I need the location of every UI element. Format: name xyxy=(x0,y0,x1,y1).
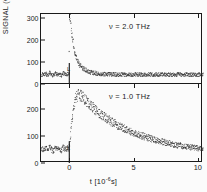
figure-container: SIGNAL (COUNTS) ν = 2.0 THz L 0100200300… xyxy=(0,0,207,192)
x-tick-mark xyxy=(198,14,199,18)
y-tick-mark xyxy=(41,17,45,18)
origin-marker-bottom: L xyxy=(67,145,70,151)
annotation-frequency-bottom: ν = 1.0 THz xyxy=(109,92,150,101)
y-tick-mark xyxy=(41,135,45,136)
x-tick-label: 0 xyxy=(67,163,71,172)
y-tick-label: 300 xyxy=(27,14,39,21)
x-axis-title-tail: s] xyxy=(111,177,117,186)
y-tick-mark xyxy=(41,39,45,40)
y-tick-label: 0 xyxy=(35,81,39,88)
y-tick-label: 100 xyxy=(27,58,39,65)
x-tick-mark xyxy=(198,84,199,88)
y-tick-mark xyxy=(41,108,45,109)
chart-panel-bottom: ν = 1.0 THz L 01002000510 xyxy=(40,83,202,162)
y-tick-mark xyxy=(41,61,45,62)
x-axis-title-main: t [10 xyxy=(90,177,106,186)
x-tick-mark xyxy=(69,158,70,162)
annotation-frequency-top: ν = 2.0 THz xyxy=(109,22,150,31)
y-axis-title: SIGNAL (COUNTS) xyxy=(1,0,10,60)
x-tick-mark xyxy=(134,84,135,88)
y-tick-label: 100 xyxy=(27,132,39,139)
y-tick-label: 0 xyxy=(35,160,39,167)
x-axis-title: t [10-6s] xyxy=(0,176,207,186)
x-tick-mark xyxy=(134,14,135,18)
x-tick-label: 10 xyxy=(194,163,202,172)
x-tick-mark xyxy=(69,84,70,88)
y-tick-label: 200 xyxy=(27,105,39,112)
origin-marker-top: L xyxy=(67,66,70,72)
x-tick-mark xyxy=(134,158,135,162)
x-tick-mark xyxy=(198,158,199,162)
x-tick-mark xyxy=(69,14,70,18)
y-tick-label: 200 xyxy=(27,36,39,43)
x-tick-label: 5 xyxy=(132,163,136,172)
chart-panel-top: ν = 2.0 THz L 0100200300 xyxy=(40,13,202,83)
y-tick-mark xyxy=(41,163,45,164)
y-axis-title-wrap: SIGNAL (COUNTS) xyxy=(2,20,14,170)
